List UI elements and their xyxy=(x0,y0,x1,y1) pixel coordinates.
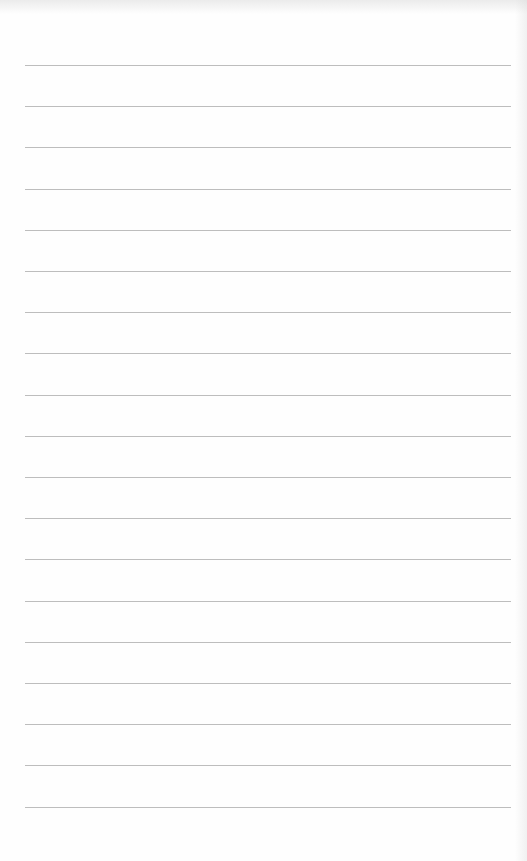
ruled-line xyxy=(25,106,511,107)
ruled-line xyxy=(25,353,511,354)
top-edge-texture xyxy=(0,0,527,14)
lined-paper-sheet xyxy=(0,0,527,861)
ruled-line xyxy=(25,271,511,272)
ruled-line xyxy=(25,601,511,602)
ruled-line xyxy=(25,724,511,725)
ruled-line xyxy=(25,642,511,643)
ruled-line xyxy=(25,807,511,808)
ruled-line xyxy=(25,147,511,148)
ruled-line xyxy=(25,477,511,478)
ruled-line xyxy=(25,65,511,66)
ruled-line xyxy=(25,189,511,190)
ruled-line xyxy=(25,518,511,519)
ruled-line xyxy=(25,683,511,684)
ruled-line xyxy=(25,395,511,396)
right-edge-texture xyxy=(515,0,527,861)
ruled-line xyxy=(25,765,511,766)
ruled-line xyxy=(25,312,511,313)
ruled-line xyxy=(25,559,511,560)
ruled-line xyxy=(25,436,511,437)
ruled-line xyxy=(25,230,511,231)
